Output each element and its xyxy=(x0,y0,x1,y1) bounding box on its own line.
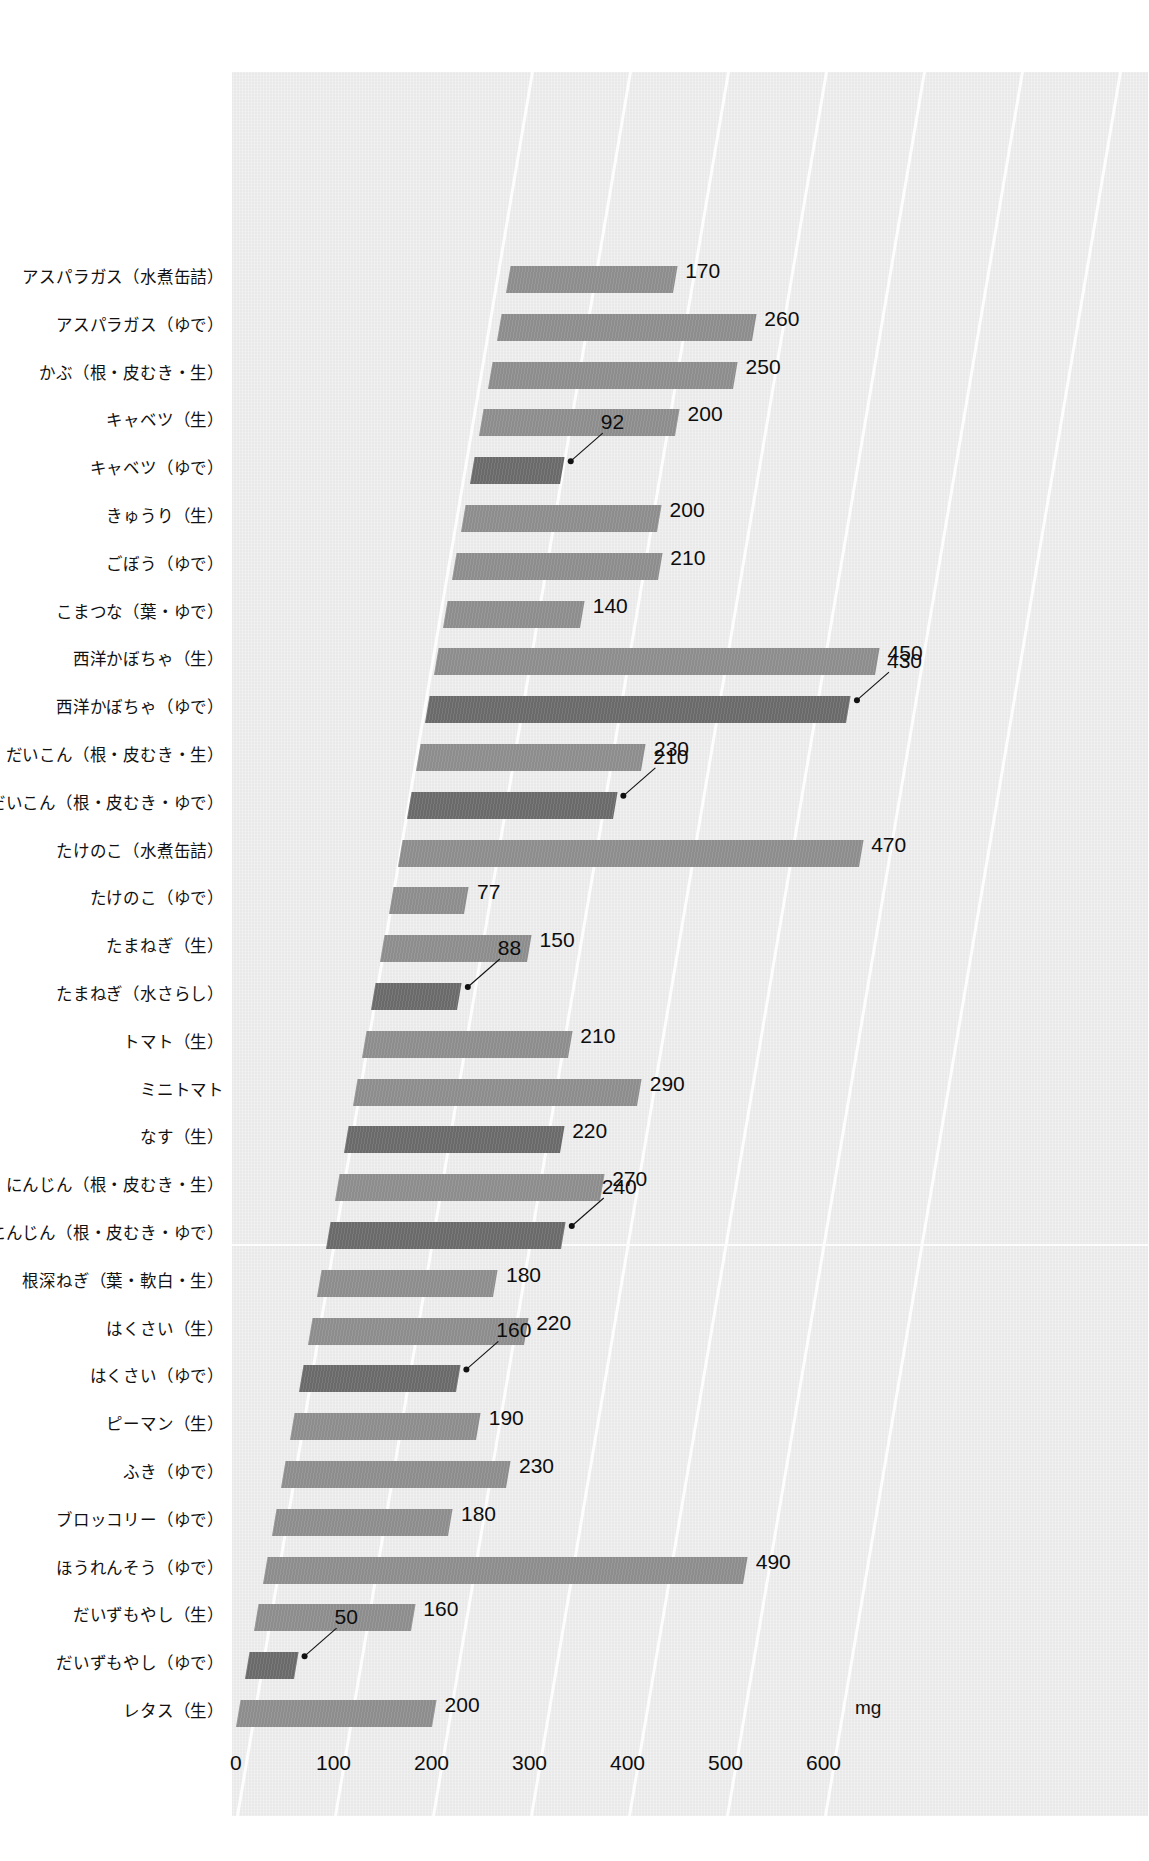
x-tick-300: 300 xyxy=(512,1752,547,1773)
chart-figure: 1702602502009220021014045043023021047077… xyxy=(0,0,1149,1861)
x-tick-400: 400 xyxy=(610,1752,645,1773)
x-tick-500: 500 xyxy=(708,1752,743,1773)
x-tick-100: 100 xyxy=(316,1752,351,1773)
x-tick-600: 600 xyxy=(806,1752,841,1773)
x-tick-200: 200 xyxy=(414,1752,449,1773)
x-tick-0: 0 xyxy=(230,1752,242,1773)
x-axis-unit-label: mg xyxy=(855,1697,881,1719)
x-axis-tick-labels: 0100200300400500600 xyxy=(0,0,1149,1861)
